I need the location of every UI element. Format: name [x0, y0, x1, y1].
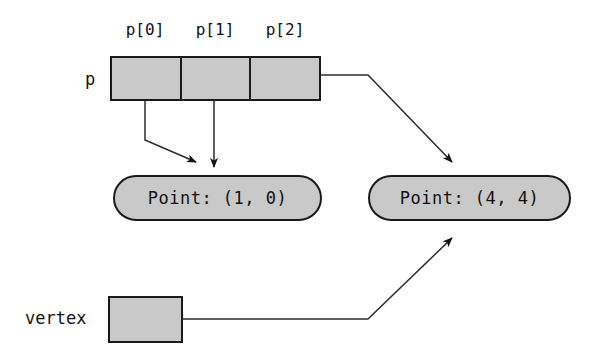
pointer-array-diagram: p[0] p[1] p[2] p Point: (1, 0) Point: (4… [0, 0, 601, 362]
array-p [110, 56, 321, 101]
pointer-arrow-vertex [140, 238, 452, 319]
point-object-right: Point: (4, 4) [368, 175, 571, 221]
array-variable-label: p [85, 71, 95, 88]
array-index-label-0: p[0] [110, 22, 180, 38]
array-cell-1 [180, 58, 250, 99]
array-index-label-2: p[2] [250, 22, 320, 38]
point-object-left: Point: (1, 0) [113, 175, 322, 221]
vertex-variable-label: vertex [25, 310, 86, 327]
array-cell-2 [249, 58, 319, 99]
array-index-label-1: p[1] [180, 22, 250, 38]
vertex-box [108, 296, 183, 343]
array-cell-0 [112, 58, 180, 99]
